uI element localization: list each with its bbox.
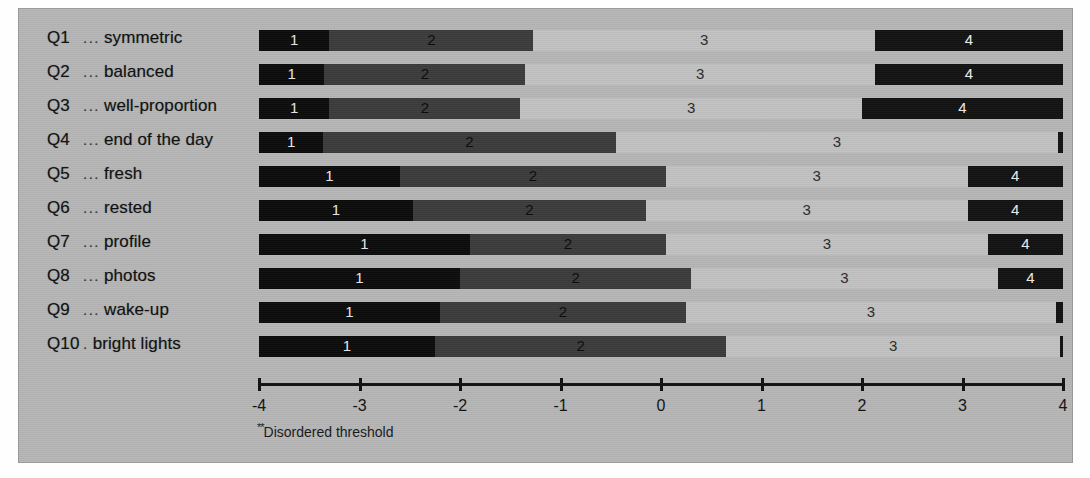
bar-segment-value: 3 — [867, 303, 875, 320]
bar-segment-1: 1 — [259, 30, 329, 51]
bar-segment-3: 3 — [726, 336, 1060, 357]
bar-segment-2: 2 — [400, 166, 666, 187]
footnote-text: Disordered threshold — [264, 424, 394, 440]
row-question-id: Q2 — [47, 62, 81, 82]
row-label-dots: ... — [83, 199, 100, 216]
bar-segment-value: 3 — [803, 201, 811, 218]
bar-segment-3: 3 — [686, 302, 1056, 323]
row-label-q7: Q7...profile — [47, 232, 247, 256]
row-question-id: Q1 — [47, 28, 81, 48]
bar-segment-1: 1 — [259, 268, 460, 289]
row-label-text: end of the day — [104, 130, 213, 149]
row-label-dots: . — [83, 335, 89, 352]
bar-segment-value: 4 — [1026, 269, 1034, 286]
bar-segment-2: 2 — [460, 268, 691, 289]
row-label-text: rested — [104, 198, 152, 217]
bar-segment-value: 1 — [355, 269, 363, 286]
bar-segment-2: 2 — [470, 234, 666, 255]
stacked-bar: 1234 — [259, 200, 1063, 221]
bar-segment-1: 1 — [259, 234, 470, 255]
bar-segment-value: 2 — [465, 133, 473, 150]
bar-segment-4: 4 — [988, 234, 1063, 255]
stacked-bar: 1234 — [259, 234, 1063, 255]
bar-segment-value: 2 — [525, 201, 533, 218]
bar-segment-4: 4 — [875, 30, 1063, 51]
stacked-bar: 123 — [259, 132, 1063, 153]
bar-segment-1: 1 — [259, 132, 323, 153]
row-label-q10: Q10.bright lights — [47, 334, 247, 358]
bar-segment-value: 3 — [700, 31, 708, 48]
footnote: **Disordered threshold — [257, 421, 394, 440]
row-label-q5: Q5...fresh — [47, 164, 247, 188]
row-label-dots: ... — [83, 63, 100, 80]
chart-row: Q1...symmetric1234 — [19, 23, 1074, 57]
bar-segment-1: 1 — [259, 302, 440, 323]
bar-segment-value: 2 — [427, 31, 435, 48]
bar-segment-4 — [1056, 302, 1063, 323]
bar-segment-1: 1 — [259, 166, 400, 187]
row-label-q8: Q8...photos — [47, 266, 247, 290]
bar-segment-3: 3 — [691, 268, 998, 289]
row-label-q3: Q3...well-proportion — [47, 96, 247, 120]
row-label-text: well-proportion — [104, 96, 217, 115]
bar-segment-4: 4 — [862, 98, 1063, 119]
row-question-id: Q7 — [47, 232, 81, 252]
row-label-q6: Q6...rested — [47, 198, 247, 222]
bar-segment-value: 4 — [1011, 167, 1019, 184]
chart-row: Q5...fresh1234 — [19, 159, 1074, 193]
bar-segment-value: 3 — [840, 269, 848, 286]
bar-segment-4 — [1058, 132, 1063, 153]
chart-row: Q4...end of the day123 — [19, 125, 1074, 159]
bar-segment-4: 4 — [875, 64, 1063, 85]
bar-segment-3: 3 — [616, 132, 1058, 153]
bar-segment-3: 3 — [525, 64, 875, 85]
chart-row: Q6...rested1234 — [19, 193, 1074, 227]
bar-segment-3: 3 — [666, 234, 988, 255]
bar-segment-value: 4 — [965, 31, 973, 48]
stacked-bar: 1234 — [259, 268, 1063, 289]
bar-segment-value: 2 — [571, 269, 579, 286]
row-question-id: Q9 — [47, 300, 81, 320]
row-label-text: bright lights — [93, 334, 181, 353]
bar-segment-2: 2 — [329, 98, 520, 119]
bar-segment-2: 2 — [413, 200, 646, 221]
chart-row: Q7...profile1234 — [19, 227, 1074, 261]
bar-segment-1: 1 — [259, 200, 413, 221]
chart-row: Q3...well-proportion1234 — [19, 91, 1074, 125]
row-label-dots: ... — [83, 131, 100, 148]
row-label-dots: ... — [83, 29, 100, 46]
bar-segment-value: 2 — [576, 337, 584, 354]
bar-segment-value: 1 — [332, 201, 340, 218]
bar-segment-3: 3 — [666, 166, 968, 187]
chart-row: Q2...balanced1234 — [19, 57, 1074, 91]
bar-segment-4: 4 — [998, 268, 1063, 289]
bar-segment-value: 1 — [325, 167, 333, 184]
row-label-q4: Q4...end of the day — [47, 130, 247, 154]
bar-segment-1: 1 — [259, 64, 324, 85]
row-label-dots: ... — [83, 165, 100, 182]
bar-segment-4: 4 — [968, 166, 1063, 187]
row-label-q1: Q1...symmetric — [47, 28, 247, 52]
bar-segment-value: 2 — [559, 303, 567, 320]
bar-segment-value: 1 — [343, 337, 351, 354]
stacked-bar: 1234 — [259, 30, 1063, 51]
row-label-text: photos — [104, 266, 156, 285]
bar-segment-3: 3 — [533, 30, 875, 51]
row-label-q2: Q2...balanced — [47, 62, 247, 86]
chart-row: Q9...wake-up123 — [19, 295, 1074, 329]
chart-row: Q10.bright lights123 — [19, 329, 1074, 363]
row-label-dots: ... — [83, 301, 100, 318]
stacked-bar: 123 — [259, 302, 1063, 323]
row-label-dots: ... — [83, 267, 100, 284]
row-question-id: Q4 — [47, 130, 81, 150]
stacked-bar: 1234 — [259, 98, 1063, 119]
bar-segment-value: 3 — [833, 133, 841, 150]
bar-segment-4 — [1060, 336, 1063, 357]
row-label-text: symmetric — [104, 28, 182, 47]
bar-segment-value: 1 — [290, 31, 298, 48]
plot-area: Q1...symmetric1234Q2...balanced1234Q3...… — [19, 9, 1074, 464]
bar-segment-2: 2 — [323, 132, 615, 153]
figure-root: Q1...symmetric1234Q2...balanced1234Q3...… — [0, 0, 1090, 478]
bar-segment-value: 1 — [287, 65, 295, 82]
row-question-id: Q3 — [47, 96, 81, 116]
